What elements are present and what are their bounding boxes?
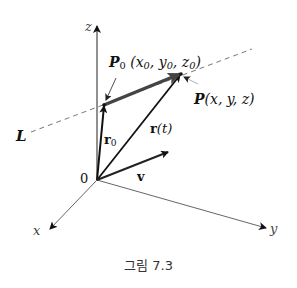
x-axis [50, 180, 97, 229]
point-p [179, 72, 183, 76]
point-p0 [102, 103, 106, 107]
p-name: P [194, 91, 205, 107]
y-axis [97, 180, 266, 228]
figure-caption: 그림 7.3 [0, 255, 297, 274]
x-axis-label: x [33, 224, 40, 237]
pointer-p0-arrow [106, 78, 116, 100]
figure-7-3: z x y 0 L P0 (x0, y0, z0) P(x, y, z) r0 … [0, 0, 297, 288]
line-L-label: L [16, 129, 27, 144]
diagram-canvas [0, 0, 297, 288]
origin-label: 0 [80, 172, 88, 185]
p0-coords: (x0, y0, z0) [130, 54, 201, 70]
vector-r0 [97, 106, 104, 180]
p0-sub: 0 [120, 60, 126, 71]
vector-v-label: v [137, 170, 145, 183]
pointer-p-arrow [184, 77, 198, 84]
p0-name: P [109, 54, 120, 70]
p-coords: (x, y, z) [205, 91, 255, 107]
point-p-label: P(x, y, z) [194, 92, 255, 106]
vector-r0-label: r0 [104, 133, 117, 146]
y-axis-label: y [270, 222, 277, 235]
point-p0-label: P0 (x0, y0, z0) [109, 55, 201, 69]
z-axis-label: z [85, 20, 92, 33]
vector-rt-label: r(t) [150, 122, 172, 135]
